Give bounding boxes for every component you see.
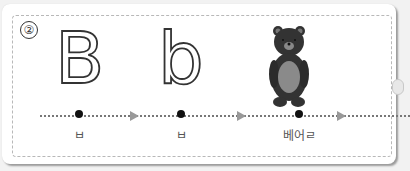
sound-label: ㅂ — [151, 126, 211, 143]
bear-icon — [268, 22, 318, 108]
item-number: ② — [20, 21, 38, 39]
timeline-dot — [75, 110, 83, 118]
arrow-right-icon — [337, 111, 346, 121]
timeline-dot — [295, 110, 303, 118]
card-notch — [392, 79, 404, 95]
arrow-right-icon — [237, 111, 246, 121]
word-label: 베어ㄹ — [269, 126, 329, 143]
dotted-timeline — [40, 115, 410, 117]
timeline-dot — [177, 110, 185, 118]
uppercase-letter: B — [55, 18, 104, 98]
sound-label: ㅂ — [49, 126, 109, 143]
arrow-right-icon — [130, 111, 139, 121]
lowercase-letter: b — [158, 18, 204, 98]
